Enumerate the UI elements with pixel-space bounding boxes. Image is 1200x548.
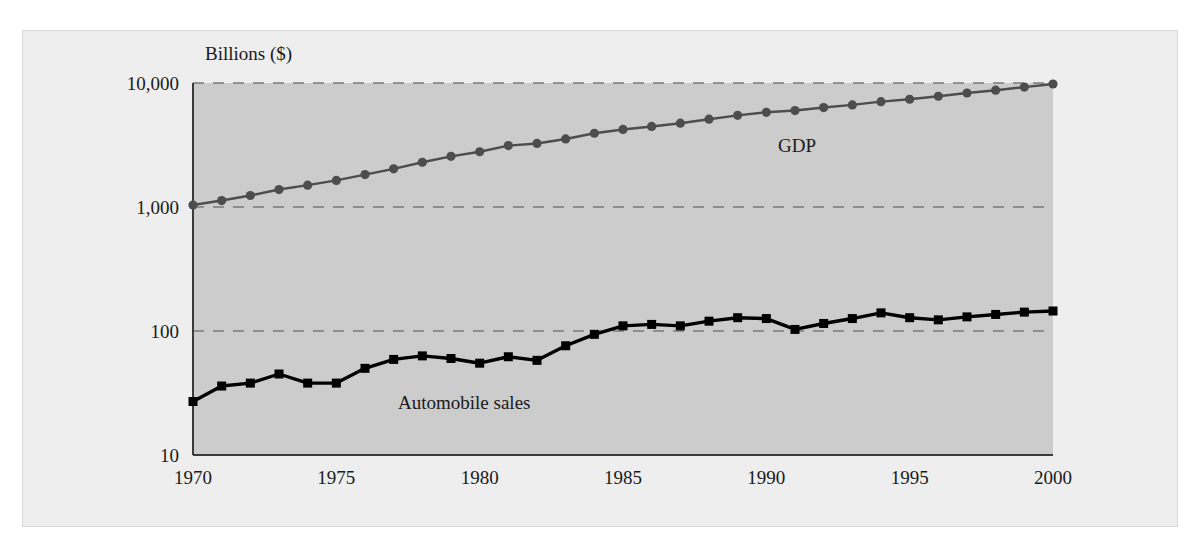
data-point-marker-gdp bbox=[848, 100, 857, 109]
x-tick-label: 1975 bbox=[317, 467, 355, 488]
y-tick-label: 10,000 bbox=[127, 73, 179, 94]
data-point-marker-automobile-sales bbox=[934, 315, 943, 324]
data-point-marker-automobile-sales bbox=[877, 308, 886, 317]
x-tick-label: 1970 bbox=[174, 467, 212, 488]
series-label-automobile-sales: Automobile sales bbox=[398, 392, 530, 413]
data-point-marker-automobile-sales bbox=[504, 352, 513, 361]
data-point-marker-gdp bbox=[934, 92, 943, 101]
data-point-marker-automobile-sales bbox=[733, 313, 742, 322]
y-tick-label: 1,000 bbox=[136, 197, 179, 218]
data-point-marker-gdp bbox=[733, 111, 742, 120]
data-point-marker-gdp bbox=[532, 139, 541, 148]
data-point-marker-automobile-sales bbox=[848, 314, 857, 323]
data-point-marker-gdp bbox=[704, 115, 713, 124]
data-point-marker-automobile-sales bbox=[561, 341, 570, 350]
data-point-marker-automobile-sales bbox=[275, 370, 284, 379]
data-point-marker-gdp bbox=[561, 134, 570, 143]
data-point-marker-automobile-sales bbox=[217, 382, 226, 391]
data-point-marker-automobile-sales bbox=[676, 321, 685, 330]
plot-area-background bbox=[193, 83, 1053, 455]
data-point-marker-automobile-sales bbox=[991, 310, 1000, 319]
y-tick-label: 100 bbox=[151, 321, 180, 342]
data-point-marker-gdp bbox=[618, 125, 627, 134]
data-point-marker-gdp bbox=[590, 129, 599, 138]
y-tick-label: 10 bbox=[160, 445, 179, 466]
data-point-marker-automobile-sales bbox=[619, 321, 628, 330]
data-point-marker-gdp bbox=[819, 103, 828, 112]
data-point-marker-gdp bbox=[876, 97, 885, 106]
x-tick-label: 1985 bbox=[604, 467, 642, 488]
data-point-marker-automobile-sales bbox=[905, 313, 914, 322]
x-tick-label: 1980 bbox=[461, 467, 499, 488]
data-point-marker-automobile-sales bbox=[189, 397, 198, 406]
data-point-marker-gdp bbox=[475, 147, 484, 156]
data-point-marker-automobile-sales bbox=[647, 320, 656, 329]
data-point-marker-automobile-sales bbox=[791, 325, 800, 334]
data-point-marker-gdp bbox=[991, 86, 1000, 95]
data-point-marker-automobile-sales bbox=[475, 359, 484, 368]
data-point-marker-gdp bbox=[504, 141, 513, 150]
data-point-marker-automobile-sales bbox=[246, 379, 255, 388]
data-point-marker-gdp bbox=[1020, 82, 1029, 91]
data-point-marker-automobile-sales bbox=[389, 355, 398, 364]
data-point-marker-gdp bbox=[790, 106, 799, 115]
data-point-marker-automobile-sales bbox=[819, 319, 828, 328]
data-point-marker-gdp bbox=[446, 152, 455, 161]
x-tick-label: 2000 bbox=[1034, 467, 1072, 488]
x-tick-label: 1995 bbox=[891, 467, 929, 488]
y-axis-tick-labels: 10,0001,00010010 bbox=[127, 73, 179, 466]
data-point-marker-gdp bbox=[905, 95, 914, 104]
series-label-gdp: GDP bbox=[778, 135, 816, 156]
data-point-marker-automobile-sales bbox=[1049, 306, 1058, 315]
data-point-marker-automobile-sales bbox=[303, 379, 312, 388]
data-point-marker-gdp bbox=[389, 164, 398, 173]
y-axis-unit-label: Billions ($) bbox=[205, 43, 292, 65]
data-point-marker-automobile-sales bbox=[590, 330, 599, 339]
data-point-marker-gdp bbox=[332, 176, 341, 185]
data-point-marker-gdp bbox=[274, 185, 283, 194]
figure-root: 10,0001,00010010 19701975198019851990199… bbox=[0, 0, 1200, 548]
data-point-marker-gdp bbox=[303, 181, 312, 190]
x-tick-label: 1990 bbox=[747, 467, 785, 488]
data-point-marker-gdp bbox=[418, 158, 427, 167]
data-point-marker-gdp bbox=[1048, 79, 1057, 88]
data-point-marker-gdp bbox=[647, 122, 656, 131]
data-point-marker-automobile-sales bbox=[533, 356, 542, 365]
data-point-marker-automobile-sales bbox=[418, 351, 427, 360]
data-point-marker-gdp bbox=[962, 88, 971, 97]
data-point-marker-gdp bbox=[246, 191, 255, 200]
data-point-marker-gdp bbox=[676, 119, 685, 128]
data-point-marker-gdp bbox=[762, 108, 771, 117]
data-point-marker-automobile-sales bbox=[447, 354, 456, 363]
data-point-marker-automobile-sales bbox=[705, 317, 714, 326]
data-point-marker-automobile-sales bbox=[1020, 308, 1029, 317]
log-scale-line-chart: 10,0001,00010010 19701975198019851990199… bbox=[0, 0, 1200, 548]
data-point-marker-automobile-sales bbox=[332, 379, 341, 388]
data-point-marker-automobile-sales bbox=[762, 314, 771, 323]
data-point-marker-automobile-sales bbox=[361, 364, 370, 373]
data-point-marker-gdp bbox=[188, 200, 197, 209]
data-point-marker-automobile-sales bbox=[963, 312, 972, 321]
data-point-marker-gdp bbox=[217, 196, 226, 205]
data-point-marker-gdp bbox=[360, 170, 369, 179]
x-axis-tick-labels: 1970197519801985199019952000 bbox=[174, 467, 1072, 488]
